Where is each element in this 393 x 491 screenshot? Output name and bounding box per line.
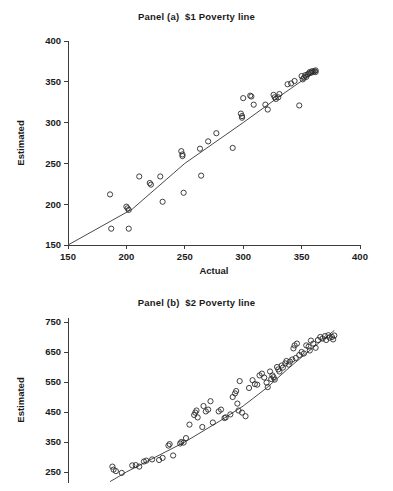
scatter-point	[158, 174, 163, 179]
y-tick-label: 150	[45, 239, 61, 250]
x-tick-label: 200	[118, 251, 134, 262]
y-tick-label: 250	[45, 158, 61, 169]
panel-a: Panel (a) $1 Poverty line 15020025030035…	[0, 0, 393, 280]
scatter-point	[206, 139, 211, 144]
scatter-point	[291, 346, 296, 351]
y-axis-title: Estimated	[15, 377, 26, 423]
y-tick-label: 550	[45, 376, 61, 387]
panel-a-plot: 150200250300350400150200250300350400Esti…	[0, 0, 393, 280]
scatter-point	[277, 91, 282, 96]
scatter-point	[126, 226, 131, 231]
scatter-point	[160, 199, 165, 204]
scatter-point	[183, 436, 188, 441]
x-tick-label: 400	[352, 251, 368, 262]
scatter-point	[137, 174, 142, 179]
y-tick-label: 750	[45, 316, 61, 327]
y-tick-label: 450	[45, 406, 61, 417]
scatter-point	[246, 385, 251, 390]
scatter-point	[237, 379, 242, 384]
scatter-point	[210, 420, 215, 425]
y-tick-label: 650	[45, 346, 61, 357]
panel-b: Panel (b) $2 Poverty line 25035045055065…	[0, 287, 393, 491]
x-tick-label: 250	[177, 251, 193, 262]
scatter-point	[107, 192, 112, 197]
y-tick-label: 250	[45, 466, 61, 477]
poverty-line-figure: Panel (a) $1 Poverty line 15020025030035…	[0, 0, 393, 491]
scatter-point	[267, 369, 272, 374]
y-tick-label: 400	[45, 35, 61, 46]
scatter-point	[181, 190, 186, 195]
scatter-point	[208, 399, 213, 404]
y-tick-label: 350	[45, 76, 61, 87]
scatter-point	[110, 464, 115, 469]
scatter-points	[107, 68, 318, 232]
scatter-point	[262, 375, 267, 380]
x-tick-label: 350	[294, 251, 310, 262]
scatter-point	[285, 82, 290, 87]
scatter-point	[214, 131, 219, 136]
x-tick-label: 150	[60, 251, 76, 262]
scatter-point	[187, 422, 192, 427]
y-tick-label: 200	[45, 199, 61, 210]
scatter-point	[241, 96, 246, 101]
scatter-point	[243, 414, 248, 419]
y-axis-title: Estimated	[15, 120, 26, 166]
scatter-point	[235, 401, 240, 406]
scatter-point	[297, 103, 302, 108]
y-tick-label: 350	[45, 436, 61, 447]
x-axis-title: Actual	[199, 265, 228, 276]
scatter-point	[148, 182, 153, 187]
scatter-point	[265, 107, 270, 112]
y-tick-label: 300	[45, 117, 61, 128]
scatter-point	[171, 453, 176, 458]
scatter-point	[179, 149, 184, 154]
fit-line	[68, 71, 316, 245]
panel-b-plot: 250350450550650750Estimated	[0, 287, 393, 491]
scatter-point	[201, 403, 206, 408]
scatter-point	[199, 173, 204, 178]
scatter-point	[200, 424, 205, 429]
scatter-point	[230, 145, 235, 150]
x-tick-label: 300	[235, 251, 251, 262]
scatter-point	[167, 442, 172, 447]
scatter-point	[109, 226, 114, 231]
scatter-points	[110, 333, 337, 476]
scatter-point	[250, 378, 255, 383]
scatter-point	[197, 146, 202, 151]
scatter-point	[251, 102, 256, 107]
